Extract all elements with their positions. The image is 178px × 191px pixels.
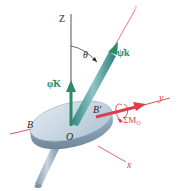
gyroscope-diagram: Z z θ ψ̇k φ̇K B B′ O y x ΣMO	[0, 0, 178, 191]
precession-vector-arrowhead	[66, 80, 76, 92]
support-rod	[35, 146, 59, 187]
x-axis-label: x	[126, 159, 132, 170]
moment-vector-arrowhead	[133, 102, 146, 111]
moment-label-sub: O	[136, 120, 141, 126]
point-B-prime-label: B′	[93, 104, 102, 115]
theta-label: θ	[83, 49, 88, 60]
z-axis-line	[114, 10, 135, 47]
y-axis-label: y	[158, 92, 164, 103]
Z-axis-label: Z	[59, 13, 65, 24]
spin-label: ψ̇k	[117, 47, 130, 58]
point-B-label: B	[27, 119, 33, 130]
x-axis-line	[98, 146, 126, 162]
z-axis-label: z	[133, 3, 138, 12]
origin-label: O	[66, 131, 73, 142]
support-rod-end	[35, 184, 42, 188]
moment-label: ΣMO	[123, 115, 141, 126]
precession-label: φ̇K	[47, 78, 61, 89]
moment-label-main: ΣM	[123, 115, 136, 125]
